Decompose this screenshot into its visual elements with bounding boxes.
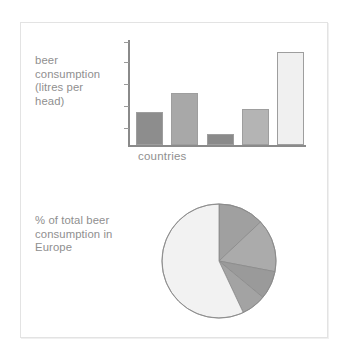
bar-chart-block: beer consumption (litres per head) count… xyxy=(20,22,328,174)
bar-chart-bar xyxy=(242,109,269,145)
y-axis-tick xyxy=(124,84,129,85)
bar-chart-bar xyxy=(277,52,304,145)
bar-chart-bar xyxy=(136,112,163,145)
pie-chart-caption: % of total beer consumption in Europe xyxy=(35,214,147,255)
y-axis-tick xyxy=(124,62,129,63)
bar-chart-bar xyxy=(207,134,234,145)
y-axis-tick xyxy=(124,128,129,129)
bar-chart-bars xyxy=(130,40,306,145)
pie-chart-plot-area xyxy=(157,199,281,323)
pie-chart-block: % of total beer consumption in Europe xyxy=(20,188,328,338)
bar-chart-bar xyxy=(171,93,198,145)
bar-chart-x-axis-label: countries xyxy=(138,150,186,162)
bar-chart-x-axis xyxy=(128,145,306,147)
bar-chart-y-axis-title: beer consumption (litres per head) xyxy=(35,54,127,108)
bar-chart-plot-area xyxy=(128,40,306,146)
pie-chart-svg xyxy=(157,199,281,323)
y-axis-tick xyxy=(124,106,129,107)
y-axis-tick xyxy=(124,42,129,43)
figure-page: beer consumption (litres per head) count… xyxy=(0,0,351,358)
